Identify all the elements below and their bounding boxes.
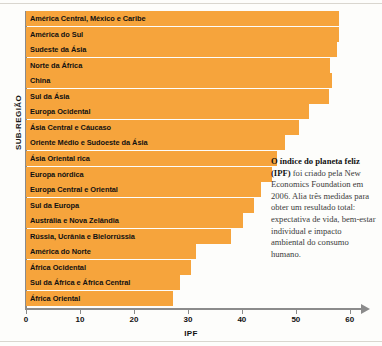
bar-category-label: Europa Ocidental (30, 104, 90, 119)
bar-category-label: Norte da África (30, 58, 82, 73)
scan-divider-bottom (0, 341, 382, 342)
bar (26, 73, 332, 88)
bar-category-label: América Central, México e Caribe (30, 11, 145, 26)
bar-category-label: Oriente Médio e Sudoeste da Ásia (30, 135, 148, 150)
x-axis-tick (26, 310, 27, 314)
x-axis-title: IPF (0, 329, 382, 338)
x-axis-tick (188, 310, 189, 314)
bar-category-label: Rússia, Ucrânia e Bielorrússia (30, 229, 135, 244)
chart-figure: SUB-REGIÃO América Central, México e Car… (0, 0, 382, 346)
x-axis-arrow-icon (361, 304, 370, 314)
bar-category-label: Ásia Oriental rica (30, 151, 90, 166)
x-axis-tick-label: 40 (230, 315, 254, 324)
x-axis-tick (80, 310, 81, 314)
bar-category-label: América do Norte (30, 244, 91, 259)
x-axis-line (25, 308, 363, 310)
bar-category-label: Austrália e Nova Zelândia (30, 213, 119, 228)
bar-category-label: Europa nórdica (30, 167, 84, 182)
bar-category-label: África Ocidental (30, 260, 86, 275)
bar-category-label: China (30, 73, 50, 88)
bar-category-label: Sul da Europa (30, 198, 79, 213)
scan-divider-top (0, 3, 382, 4)
bar-category-label: Sul da África e África Central (30, 275, 130, 290)
x-axis-tick-label: 30 (176, 315, 200, 324)
x-axis-tick-label: 0 (14, 315, 38, 324)
bar-category-label: Europa Central e Oriental (30, 182, 118, 197)
annotation-body: foi criado pela New Economics Foundation… (271, 168, 376, 259)
bar-category-label: Sudeste da Ásia (30, 42, 86, 57)
bar-category-label: América do Sul (30, 27, 83, 42)
x-axis-tick-label: 20 (122, 315, 146, 324)
bar (26, 89, 329, 104)
x-axis-tick-label: 60 (338, 315, 362, 324)
bar-category-label: Ásia Central e Cáucaso (30, 120, 111, 135)
x-axis-tick (350, 310, 351, 314)
x-axis-tick (242, 310, 243, 314)
annotation-text: O índice do planeta feliz (IPF) foi cria… (271, 156, 377, 260)
x-axis-tick-label: 50 (284, 315, 308, 324)
x-axis-tick (296, 310, 297, 314)
x-axis-tick-label: 10 (68, 315, 92, 324)
bar-category-label: África Oriental (30, 291, 80, 306)
bar-category-label: Sul da Ásia (30, 89, 69, 104)
y-axis-title: SUB-REGIÃO (14, 75, 23, 171)
x-axis-tick (134, 310, 135, 314)
